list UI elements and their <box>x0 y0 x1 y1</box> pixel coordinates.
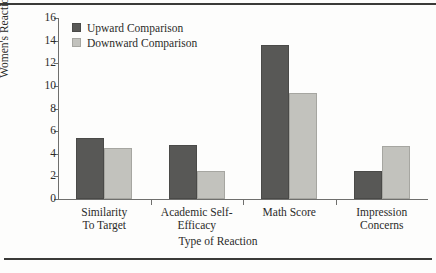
category-label-line: Math Score <box>243 206 336 219</box>
category-label-3: ImpressionConcerns <box>336 206 429 232</box>
category-label-1: Academic Self-Efficacy <box>151 206 244 232</box>
x-axis-title: Type of Reaction <box>0 235 436 247</box>
figure-top-rule <box>0 3 436 5</box>
bar-downward-1 <box>197 171 225 199</box>
category-label-line: Impression <box>336 206 429 219</box>
y-tick-label-4: 4 <box>16 148 56 160</box>
category-label-line: Concerns <box>336 219 429 232</box>
x-tick-separator-2 <box>243 199 244 205</box>
y-tick-label-16: 16 <box>16 12 56 24</box>
category-label-line: Efficacy <box>151 219 244 232</box>
y-tick-label-6: 6 <box>16 125 56 137</box>
y-tick-label-12: 12 <box>16 57 56 69</box>
category-label-0: SimilarityTo Target <box>58 206 151 232</box>
plot-area: 0246810121416 SimilarityTo TargetAcademi… <box>58 18 428 199</box>
y-tick-label-8: 8 <box>16 103 56 115</box>
figure-container: Women's Reactions Type of Reaction Upwar… <box>0 0 436 273</box>
y-tick-label-14: 14 <box>16 35 56 47</box>
y-tick-label-10: 10 <box>16 80 56 92</box>
x-tick-separator-1 <box>151 199 152 205</box>
bar-upward-1 <box>169 145 197 199</box>
category-label-2: Math Score <box>243 206 336 219</box>
y-axis-title: Women's Reactions <box>0 0 10 78</box>
y-tick-label-0: 0 <box>16 193 56 205</box>
bar-downward-3 <box>382 146 410 199</box>
y-tick-label-2: 2 <box>16 170 56 182</box>
bar-upward-2 <box>261 45 289 199</box>
category-label-line: Similarity <box>58 206 151 219</box>
category-label-line: To Target <box>58 219 151 232</box>
bar-upward-0 <box>76 138 104 199</box>
category-label-line: Academic Self- <box>151 206 244 219</box>
bar-upward-3 <box>354 171 382 199</box>
figure-bottom-rule <box>4 258 432 260</box>
x-tick-separator-3 <box>336 199 337 205</box>
bar-downward-0 <box>104 148 132 199</box>
bar-downward-2 <box>289 93 317 199</box>
